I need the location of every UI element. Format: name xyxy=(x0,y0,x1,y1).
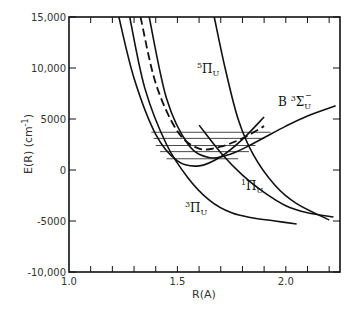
label-3pi-u: 3ΠU xyxy=(185,200,208,217)
y-axis-title: E(R) (cm-1) xyxy=(21,114,35,174)
curve-b-3-u-solid-continuation xyxy=(149,17,335,158)
x-tick-label: 1.5 xyxy=(169,276,185,287)
y-tick-label: 0 xyxy=(60,165,66,176)
plot-frame xyxy=(69,17,340,272)
label-b3sigma-u: B 3ΣU− xyxy=(278,91,312,111)
x-tick-labels: 1.01.52.0 xyxy=(61,276,294,287)
potential-curves xyxy=(119,17,336,224)
y-tick-label: -10,000 xyxy=(27,267,66,278)
y-tick-label: -5000 xyxy=(37,216,66,227)
label-5pi-u: 5ΠU xyxy=(197,61,220,78)
y-tick-label: 10,000 xyxy=(31,63,66,74)
y-axis-ticks xyxy=(69,17,340,272)
curve-x-ground-state-unlabeled xyxy=(119,17,264,166)
x-axis-ticks xyxy=(91,17,329,272)
curve-labels: 5ΠU B 3ΣU− 1ΠU 3ΠU xyxy=(185,61,312,217)
label-1pi-u: 1ΠU xyxy=(241,178,264,195)
potential-energy-chart: 1.01.52.0 15,00010,00050000-5000-10,000 … xyxy=(0,0,354,314)
curve-1-u xyxy=(199,125,333,217)
y-tick-label: 15,000 xyxy=(31,12,66,23)
x-axis-title: R(A) xyxy=(192,288,216,301)
x-tick-label: 2.0 xyxy=(278,276,294,287)
curve-5-u xyxy=(214,17,329,220)
y-tick-label: 5000 xyxy=(41,114,66,125)
axes-frame xyxy=(69,17,340,272)
